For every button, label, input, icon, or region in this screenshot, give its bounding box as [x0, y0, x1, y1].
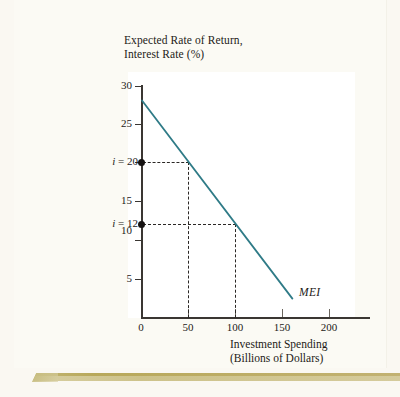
figure-page-sheet: Expected Rate of Return, Interest Rate (…	[14, 0, 386, 368]
mei-curve-line	[142, 101, 292, 299]
page-edge-body	[30, 376, 400, 381]
x-axis-label: Investment Spending (Billions of Dollars…	[230, 337, 390, 365]
x-axis-label-line-1: Investment Spending	[230, 337, 390, 351]
mei-curve-label: MEI	[299, 286, 320, 298]
mei-investment-chart: Expected Rate of Return, Interest Rate (…	[14, 0, 386, 368]
page-edge-strip	[0, 373, 400, 387]
x-axis-label-line-2: (Billions of Dollars)	[230, 351, 390, 365]
mei-curve-svg	[14, 0, 386, 368]
page-edge-taper	[18, 373, 58, 382]
